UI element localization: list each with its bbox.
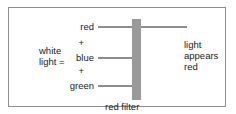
plus-separator-1: + bbox=[24, 37, 84, 48]
output-line-1: light bbox=[184, 39, 218, 50]
component-label-blue: blue bbox=[34, 52, 94, 63]
red-filter-bar bbox=[132, 19, 141, 100]
output-line-2: appears bbox=[184, 50, 218, 61]
ray-green-incoming bbox=[98, 85, 134, 87]
component-label-green: green bbox=[34, 80, 94, 91]
component-label-red: red bbox=[34, 21, 94, 32]
output-line-3: red bbox=[184, 61, 218, 72]
output-light-label: light appears red bbox=[184, 39, 218, 72]
ray-red-transmitted bbox=[141, 26, 187, 28]
plus-separator-2: + bbox=[24, 65, 84, 76]
ray-blue-incoming bbox=[98, 57, 134, 59]
red-filter-caption: red filter bbox=[105, 101, 139, 112]
diagram-frame: white light = red + blue + green red fil… bbox=[8, 7, 226, 107]
ray-red-incoming bbox=[98, 26, 134, 28]
figure-canvas: white light = red + blue + green red fil… bbox=[0, 0, 236, 114]
